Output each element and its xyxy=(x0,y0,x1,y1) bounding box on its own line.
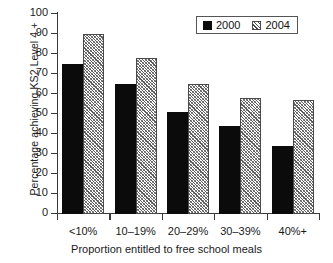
legend-entry-2004: 2004 xyxy=(252,19,289,31)
y-tick-label: 80 xyxy=(36,45,48,59)
x-tick xyxy=(57,214,58,220)
y-tick-label: 40 xyxy=(36,125,48,139)
bar-2000-10–19% xyxy=(115,84,136,214)
y-tick-label: 70 xyxy=(36,65,48,79)
x-tick-label-2: 20–29% xyxy=(168,225,208,238)
y-tick: 50 xyxy=(51,113,57,114)
x-tick xyxy=(109,214,110,220)
x-tick-label-4: 40%+ xyxy=(279,225,307,238)
y-tick-label: 10 xyxy=(36,185,48,199)
bar-2004-20–29% xyxy=(188,84,209,214)
bar-2004-10–19% xyxy=(136,58,157,214)
legend-label-2004: 2004 xyxy=(265,19,289,31)
y-tick: 90 xyxy=(51,33,57,34)
y-tick-label: 20 xyxy=(36,165,48,179)
legend-entry-2000: 2000 xyxy=(203,19,240,31)
y-tick-label: 50 xyxy=(36,105,48,119)
bar-2000-30–39% xyxy=(219,126,240,214)
x-tick-label-1: 10–19% xyxy=(115,225,155,238)
bar-2004-40%+ xyxy=(293,100,314,214)
x-tick-label-0: <10% xyxy=(69,225,97,238)
x-axis-title: Proportion entitled to free school meals xyxy=(0,243,333,255)
y-tick-label: 90 xyxy=(36,25,48,39)
x-tick xyxy=(267,214,268,220)
x-tick xyxy=(319,214,320,220)
x-tick xyxy=(214,214,215,220)
legend: 2000 2004 xyxy=(196,16,298,34)
y-tick: 100 xyxy=(51,13,57,14)
bar-2000-<10% xyxy=(62,64,83,214)
x-tick-label-3: 30–39% xyxy=(220,225,260,238)
bar-2000-40%+ xyxy=(272,146,293,214)
y-tick: 80 xyxy=(51,53,57,54)
plot-area: 0102030405060708090100 <10%10–19%20–29%3… xyxy=(57,14,319,214)
y-tick: 30 xyxy=(51,153,57,154)
y-tick-label: 0 xyxy=(42,205,48,219)
legend-swatch-2000-icon xyxy=(203,21,212,30)
x-tick xyxy=(162,214,163,220)
y-tick: 10 xyxy=(51,193,57,194)
bar-2004-<10% xyxy=(83,34,104,214)
bar-2000-20–29% xyxy=(167,112,188,214)
legend-label-2000: 2000 xyxy=(216,19,240,31)
y-tick: 40 xyxy=(51,133,57,134)
y-tick: 60 xyxy=(51,93,57,94)
bar-chart: Percentage achieving KS2 Level 4 + 01020… xyxy=(0,0,333,263)
y-tick-label: 30 xyxy=(36,145,48,159)
y-tick: 20 xyxy=(51,173,57,174)
y-tick: 70 xyxy=(51,73,57,74)
y-tick-label: 60 xyxy=(36,85,48,99)
y-tick-label: 100 xyxy=(30,5,48,19)
bar-2004-30–39% xyxy=(240,98,261,214)
y-axis-line xyxy=(57,12,58,214)
legend-swatch-2004-icon xyxy=(252,21,261,30)
